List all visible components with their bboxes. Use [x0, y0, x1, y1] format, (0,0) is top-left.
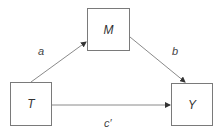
- node-m-label: M: [104, 23, 114, 37]
- node-t: T: [10, 82, 52, 126]
- mediation-diagram: M T Y a b c′: [0, 0, 224, 136]
- node-y: Y: [171, 83, 213, 126]
- edge-label-b: b: [172, 45, 178, 57]
- node-y-label: Y: [188, 98, 196, 112]
- edge-label-a: a: [38, 45, 44, 57]
- node-t-label: T: [27, 97, 34, 111]
- node-m: M: [87, 8, 130, 51]
- edge-m-to-y: [130, 37, 185, 82]
- edge-label-c-prime: c′: [104, 117, 112, 129]
